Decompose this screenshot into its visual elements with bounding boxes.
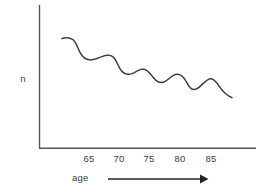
x-axis-label: age bbox=[72, 172, 88, 183]
chart-plot-area bbox=[0, 0, 258, 195]
x-tick-label-80: 80 bbox=[169, 153, 191, 164]
x-tick-label-70: 70 bbox=[108, 153, 130, 164]
x-axis-arrow bbox=[108, 175, 209, 184]
chart-figure: n 65 70 75 80 85 age bbox=[0, 0, 258, 195]
right-arrow-icon-head bbox=[200, 175, 209, 184]
data-curve-n bbox=[62, 38, 232, 98]
x-tick-label-85: 85 bbox=[200, 153, 222, 164]
x-tick-label-65: 65 bbox=[78, 153, 100, 164]
y-axis-label: n bbox=[14, 73, 32, 84]
x-tick-label-75: 75 bbox=[138, 153, 160, 164]
